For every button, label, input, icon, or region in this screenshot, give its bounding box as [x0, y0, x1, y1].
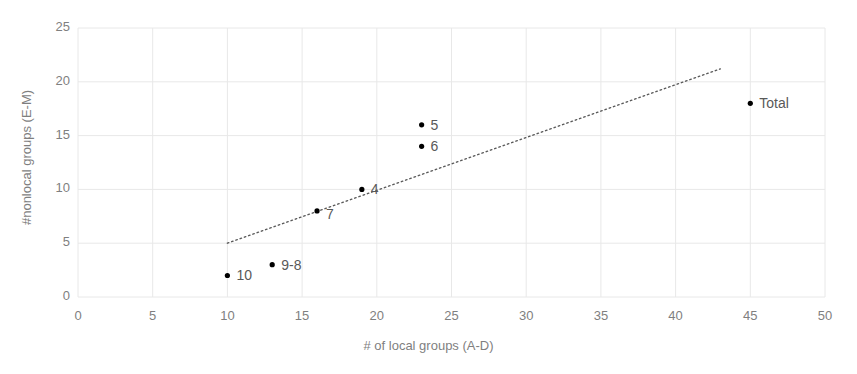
x-axis-tick: 50 [805, 308, 845, 323]
x-axis-tick: 35 [581, 308, 621, 323]
y-axis-tick: 15 [30, 127, 70, 142]
y-axis-tick: 5 [30, 234, 70, 249]
x-axis-title: # of local groups (A-D) [0, 338, 857, 353]
plot-area: 109-87465Total [78, 28, 825, 297]
x-axis-tick: 20 [357, 308, 397, 323]
data-point-marker[interactable] [419, 122, 424, 127]
trendline-path [227, 69, 720, 243]
data-point-marker[interactable] [419, 144, 424, 149]
y-axis-tick: 0 [30, 288, 70, 303]
x-axis-tick: 5 [133, 308, 173, 323]
y-axis-tick: 10 [30, 180, 70, 195]
data-point-marker[interactable] [748, 101, 753, 106]
y-axis-tick: 25 [30, 19, 70, 34]
gridlines [78, 28, 825, 297]
x-axis-tick: 25 [432, 308, 472, 323]
data-point-marker[interactable] [270, 262, 275, 267]
x-axis-tick: 40 [656, 308, 696, 323]
scatter-chart: #nonlocal groups (E-M) 0510152025 051015… [0, 0, 857, 374]
x-axis-tick: 0 [58, 308, 98, 323]
x-axis-tick: 10 [207, 308, 247, 323]
y-axis-tick: 20 [30, 73, 70, 88]
x-axis-tick: 30 [506, 308, 546, 323]
x-axis-tick: 15 [282, 308, 322, 323]
plot-canvas [78, 28, 825, 297]
x-axis-tick: 45 [730, 308, 770, 323]
trendline [227, 69, 720, 243]
data-point-marker[interactable] [225, 273, 230, 278]
data-point-marker[interactable] [314, 208, 319, 213]
data-point-marker[interactable] [359, 187, 364, 192]
